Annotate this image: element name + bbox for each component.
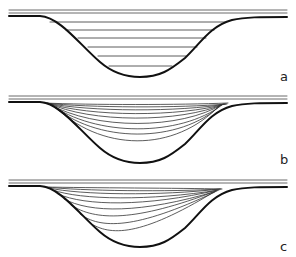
panel-label-b: b	[280, 153, 288, 166]
panel-b	[9, 96, 287, 163]
panel-label-a: a	[280, 70, 288, 83]
fill-layers	[44, 187, 222, 231]
channel-boundary	[9, 16, 287, 77]
panel-a	[9, 10, 287, 77]
diagram-canvas	[0, 0, 296, 257]
panel-label-c: c	[280, 240, 287, 253]
panel-c	[9, 180, 287, 247]
